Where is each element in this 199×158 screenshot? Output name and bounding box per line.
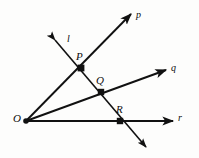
label-point-O: O bbox=[13, 113, 21, 124]
point-marker-P bbox=[78, 65, 85, 72]
label-line-l: l bbox=[67, 34, 70, 44]
label-ray-q: q bbox=[171, 63, 176, 73]
point-marker-Q bbox=[98, 89, 104, 95]
label-ray-r: r bbox=[178, 113, 182, 123]
point-marker-O bbox=[23, 118, 29, 124]
label-point-Q: Q bbox=[96, 75, 104, 86]
label-ray-p: p bbox=[136, 10, 141, 20]
point-marker-R bbox=[117, 118, 123, 124]
label-point-P: P bbox=[76, 51, 83, 62]
geometry-figure: O P Q R p q r l bbox=[0, 0, 199, 158]
label-point-R: R bbox=[116, 104, 123, 115]
